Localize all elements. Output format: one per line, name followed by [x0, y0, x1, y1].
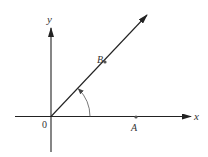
- x-axis-label: x: [193, 110, 199, 122]
- terminal-ray: [51, 15, 147, 117]
- y-axis-label: y: [46, 13, 52, 25]
- origin-label: 0: [42, 119, 47, 130]
- point-b-label: B: [97, 54, 103, 65]
- point-a-label: A: [130, 122, 138, 133]
- coordinate-diagram: y x 0 B A: [0, 0, 208, 157]
- angle-arc: [79, 89, 91, 117]
- point-a: [134, 115, 137, 118]
- point-b: [103, 60, 106, 63]
